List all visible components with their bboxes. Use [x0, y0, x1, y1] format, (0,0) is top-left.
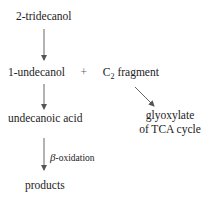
node-products: products	[25, 179, 65, 191]
node-1-undecanol: 1-undecanol + C2 fragment	[8, 66, 159, 83]
pathway-arrows	[0, 0, 210, 199]
oxidation-text: -oxidation	[55, 153, 94, 163]
undecanol-label: 1-undecanol	[8, 66, 65, 78]
carbon-symbol: C	[103, 66, 111, 78]
glyoxylate-line2: of TCA cycle	[138, 123, 202, 135]
node-undecanoic-acid: undecanoic acid	[8, 112, 82, 124]
edge-label-beta-oxidation: β-oxidation	[50, 151, 95, 164]
c2-fragment-label: C2 fragment	[103, 66, 159, 78]
node-glyoxylate: glyoxylate of TCA cycle	[138, 109, 202, 135]
arrow-fragment-to-glyoxylate	[135, 87, 154, 106]
glyoxylate-line1: glyoxylate	[138, 109, 202, 121]
node-2-tridecanol: 2-tridecanol	[16, 10, 72, 22]
fragment-word: fragment	[115, 66, 159, 78]
plus-sign: +	[81, 66, 88, 78]
